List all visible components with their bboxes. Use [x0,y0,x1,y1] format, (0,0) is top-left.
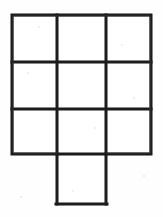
cell-r1c3 [106,15,151,62]
cell-r3c1 [12,109,57,154]
cell-r3c3 [106,109,151,154]
polyomino-net-drawing [0,0,163,217]
cell-r3c2 [57,109,106,154]
cell-r2c3 [106,62,151,109]
cell-r1c1 [12,15,57,62]
figure-canvas: Hand-drawn scanned outline figure: a thr… [0,0,163,217]
cell-r2c1 [12,62,57,109]
cell-r2c2 [57,62,106,109]
cell-tab [57,154,106,205]
cell-r1c2 [57,15,106,62]
